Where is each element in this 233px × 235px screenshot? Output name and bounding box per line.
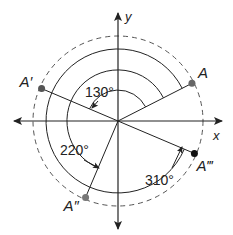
x-axis-label: x <box>212 128 220 143</box>
point-label-A-double-prime: A″ <box>63 197 80 214</box>
segment-A-triple-prime <box>118 121 194 153</box>
point-A-triple-prime <box>191 150 198 157</box>
y-axis-label: y <box>124 9 133 24</box>
segment-A-double-prime <box>86 121 118 197</box>
angle-label-220: 220° <box>60 142 89 158</box>
angle-label-310: 310° <box>145 172 174 188</box>
rotation-diagram: x y AA′A″A‴ 130° 220° 310° <box>0 0 233 235</box>
point-label-A-prime: A′ <box>19 73 34 90</box>
point-label-A: A <box>197 64 208 81</box>
point-A-double-prime <box>82 194 89 201</box>
point-A-prime <box>38 85 45 92</box>
point-label-A-triple-prime: A‴ <box>195 157 213 174</box>
arrow-220 <box>84 160 99 168</box>
angle-label-130: 130° <box>85 84 114 100</box>
segment-A <box>118 83 192 121</box>
point-A <box>188 80 195 87</box>
